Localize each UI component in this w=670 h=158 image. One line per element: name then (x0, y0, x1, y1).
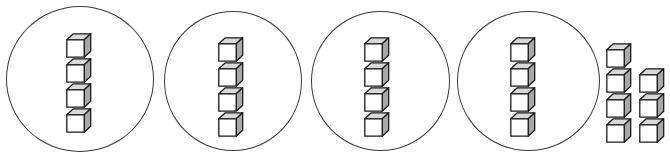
cube-icon (510, 87, 536, 113)
cube-icon (218, 87, 244, 113)
cube-icon (364, 112, 390, 138)
diagram-canvas (0, 0, 670, 158)
cube-icon (364, 37, 390, 63)
cube-icon (510, 37, 536, 63)
cube-icon (66, 83, 92, 109)
cube-icon (510, 112, 536, 138)
cube-icon (606, 93, 632, 119)
cube-icon (606, 68, 632, 94)
cube-icon (66, 108, 92, 134)
cube-icon (66, 33, 92, 59)
cube-icon (639, 68, 665, 94)
cube-icon (639, 93, 665, 119)
cube-icon (66, 58, 92, 84)
loose-cube-cluster (606, 43, 665, 144)
cube-stack-4 (510, 37, 536, 138)
cube-icon (218, 62, 244, 88)
cube-stack-2 (218, 37, 244, 138)
cube-stack-3 (364, 37, 390, 138)
cube-icon (510, 62, 536, 88)
cube-icon (364, 87, 390, 113)
cube-icon (218, 37, 244, 63)
cube-icon (218, 112, 244, 138)
cube-icon (606, 118, 632, 144)
cube-icon (639, 118, 665, 144)
cube-icon (606, 43, 632, 69)
cube-icon (364, 62, 390, 88)
cube-stack-1 (66, 33, 92, 134)
